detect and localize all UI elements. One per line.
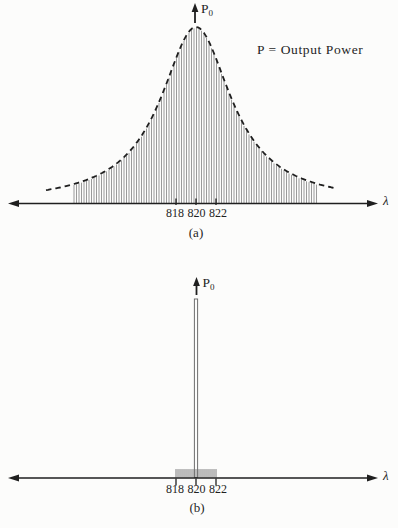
- legend-text: P = Output Power: [257, 43, 363, 57]
- y-axis-arrowhead-b: [193, 277, 200, 286]
- caption-b: (b): [189, 501, 204, 514]
- x-axis-b: [8, 475, 378, 482]
- tick-label-820-b: 820: [188, 483, 206, 495]
- tick-label-820-a: 820: [188, 207, 206, 219]
- y-axis-arrow-b: [193, 277, 200, 295]
- tick-label-818-a: 818: [166, 207, 184, 219]
- x-axis-label-b: λ: [383, 469, 389, 482]
- tick-label-822-a: 822: [209, 207, 227, 219]
- spectrum-figure: P0 P = Output Power 818 820 822 λ (a) P0…: [0, 0, 398, 528]
- tick-label-822-b: 822: [209, 483, 227, 495]
- side-modes-b: [176, 469, 216, 477]
- y-axis-label-a: P0: [201, 2, 213, 18]
- x-axis-arrow-left-b: [8, 475, 19, 482]
- x-axis-label-a: λ: [383, 194, 389, 207]
- plot-a: [8, 3, 378, 207]
- caption-a: (a): [189, 226, 203, 239]
- laser-spike-b: [194, 299, 197, 478]
- figure-canvas: [0, 0, 398, 528]
- y-axis-arrow-a: [192, 3, 199, 23]
- y-axis-label-b: P0: [203, 276, 215, 292]
- x-axis-arrow-right-a: [367, 200, 378, 207]
- plot-b: [8, 277, 378, 486]
- y-axis-label-a-base: P: [201, 1, 209, 16]
- x-axis-arrow-right-b: [367, 475, 378, 482]
- y-axis-label-b-base: P: [203, 275, 211, 290]
- y-axis-label-b-sub: 0: [210, 282, 215, 292]
- y-axis-arrowhead-a: [192, 3, 199, 12]
- tick-label-818-b: 818: [166, 483, 184, 495]
- y-axis-label-a-sub: 0: [209, 8, 214, 18]
- x-axis-arrow-left-a: [8, 200, 19, 207]
